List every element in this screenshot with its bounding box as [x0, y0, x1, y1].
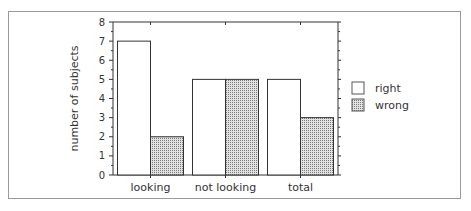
y-tick-label: 1	[99, 150, 105, 161]
x-category-label: looking	[131, 181, 171, 194]
bar-chart: 012345678lookingnot lookingtotalnumber o…	[0, 0, 471, 211]
y-tick-label: 8	[99, 17, 105, 28]
x-category-label: not looking	[195, 181, 256, 194]
bar-right-total	[268, 79, 301, 175]
y-tick-label: 7	[99, 36, 105, 47]
x-category-label: total	[288, 181, 313, 194]
y-axis-label: number of subjects	[68, 45, 81, 151]
legend-label-right: right	[375, 82, 402, 95]
bar-wrong-not-looking	[226, 79, 259, 175]
y-tick-label: 2	[99, 131, 105, 142]
y-tick-label: 4	[99, 93, 105, 104]
legend-swatch-wrong	[352, 99, 364, 111]
legend-label-wrong: wrong	[375, 99, 409, 112]
legend-swatch-right	[352, 82, 364, 94]
bars	[118, 41, 334, 175]
y-tick-label: 0	[99, 170, 105, 181]
bar-wrong-total	[301, 118, 334, 175]
y-tick-label: 6	[99, 55, 105, 66]
legend: rightwrong	[352, 82, 409, 112]
y-tick-label: 5	[99, 74, 105, 85]
y-tick-label: 3	[99, 112, 105, 123]
bar-right-not-looking	[193, 79, 226, 175]
bar-wrong-looking	[151, 137, 184, 175]
bar-right-looking	[118, 41, 151, 175]
